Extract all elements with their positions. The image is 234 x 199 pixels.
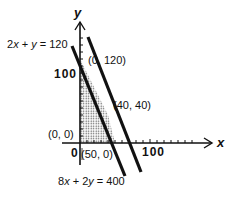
origin-tick-0: 0 — [71, 146, 79, 160]
equation-label-1: 2x + y = 120 — [7, 38, 68, 50]
point-label-0-120: (0, 120) — [88, 54, 126, 66]
point-label-40-40: (40, 40) — [113, 99, 151, 111]
linear-programming-graph: y x 100 100 0 2x + y = 120 8x + 2y = 400… — [0, 0, 234, 199]
point-label-0-0: (0, 0) — [48, 128, 74, 140]
equation-label-2: 8x + 2y = 400 — [58, 175, 125, 187]
x-axis-label: x — [216, 135, 225, 150]
point-label-50-0: (50, 0) — [81, 148, 113, 160]
y-tick-100: 100 — [54, 67, 77, 81]
feasible-region — [80, 59, 115, 143]
y-axis-label: y — [73, 5, 82, 20]
x-tick-100: 100 — [142, 145, 165, 159]
